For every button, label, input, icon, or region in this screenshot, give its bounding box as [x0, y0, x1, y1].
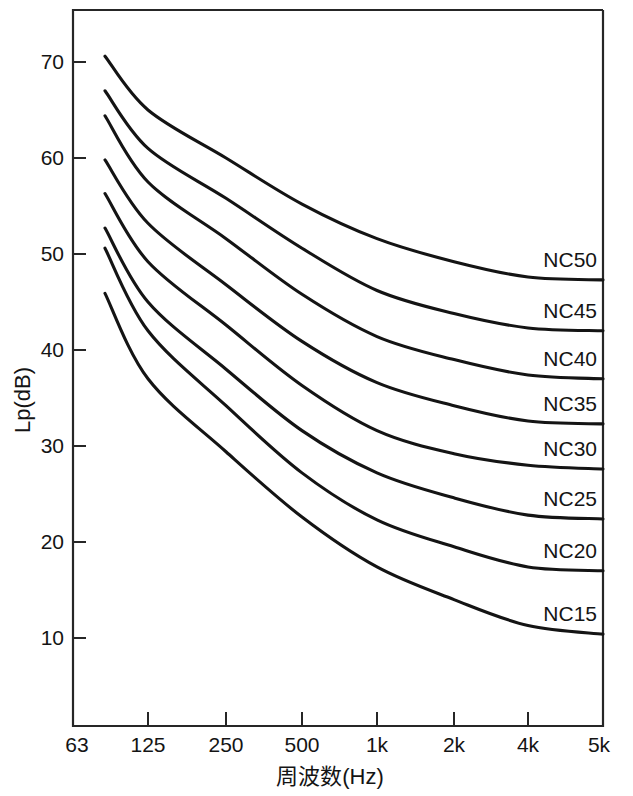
y-tick-label: 40 — [41, 338, 64, 361]
nc-curve-label: NC45 — [543, 299, 597, 322]
nc-curve-label: NC30 — [543, 437, 597, 460]
x-axis-tick-labels: 631252505001k2k4k5k — [65, 733, 610, 756]
nc-curve — [105, 56, 603, 280]
x-axis-title: 周波数(Hz) — [276, 764, 384, 789]
nc-curve-label: NC15 — [543, 602, 597, 625]
chart-canvas: 70605040302010 631252505001k2k4k5k NC50N… — [0, 0, 633, 796]
nc-curves-group — [105, 56, 603, 634]
x-tick-label: 125 — [130, 733, 165, 756]
y-tick-label: 10 — [41, 626, 64, 649]
y-tick-label: 30 — [41, 434, 64, 457]
y-tick-label: 50 — [41, 242, 64, 265]
nc-curve-label: NC50 — [543, 248, 597, 271]
y-axis-ticks — [73, 62, 86, 638]
y-tick-label: 60 — [41, 146, 64, 169]
nc-curve-chart: 70605040302010 631252505001k2k4k5k NC50N… — [0, 0, 633, 796]
plot-frame — [73, 10, 603, 726]
x-tick-label: 1k — [366, 733, 389, 756]
nc-curve-label: NC20 — [543, 539, 597, 562]
x-tick-label: 500 — [284, 733, 319, 756]
y-axis-tick-labels: 70605040302010 — [41, 50, 64, 649]
x-tick-label: 4k — [517, 733, 540, 756]
x-tick-label: 5k — [588, 733, 611, 756]
nc-curve-label: NC35 — [543, 392, 597, 415]
x-tick-label: 63 — [65, 733, 88, 756]
x-tick-label: 2k — [443, 733, 466, 756]
nc-curve — [105, 116, 603, 379]
y-tick-label: 70 — [41, 50, 64, 73]
nc-curve — [105, 91, 603, 331]
x-axis-ticks — [148, 712, 528, 726]
y-tick-label: 20 — [41, 530, 64, 553]
y-axis-title: Lp(dB) — [10, 367, 35, 433]
nc-curve-label: NC40 — [543, 347, 597, 370]
x-tick-label: 250 — [208, 733, 243, 756]
nc-curve — [105, 248, 603, 571]
nc-curve — [105, 160, 603, 424]
nc-curve-label: NC25 — [543, 487, 597, 510]
